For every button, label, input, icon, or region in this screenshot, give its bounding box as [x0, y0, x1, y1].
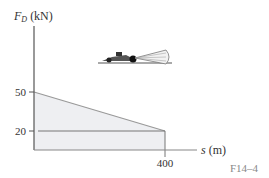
x-axis-label: s (m) [201, 143, 226, 157]
y-axis-label: FD (kN) [13, 9, 53, 24]
figure-label: F14–4 [230, 162, 259, 174]
ytick-20: 20 [15, 125, 27, 137]
ytick-50: 50 [15, 86, 27, 98]
force-displacement-diagram: 50 20 400 FD (kN) s (m) F14–4 [0, 0, 269, 178]
xtick-400: 400 [157, 157, 174, 169]
work-area [34, 92, 165, 150]
dragster-with-parachute-icon [98, 50, 172, 64]
